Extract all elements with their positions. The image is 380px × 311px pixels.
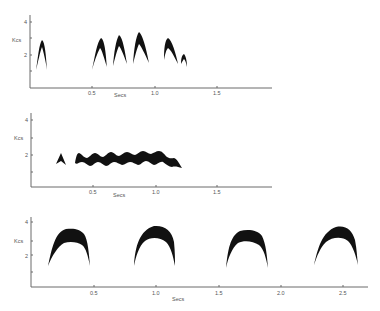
y-axis	[30, 15, 272, 88]
spectrogram-figure: 4 2 Kcs 0.5 1.0 1.5 Secs 4 2 Kcs 0.5 1.0…	[0, 0, 380, 311]
x-tick-label: 1.0	[152, 290, 160, 296]
y-axis-label: Kcs	[12, 37, 21, 43]
panel-middle: 4 2 Kcs 0.5 1.0 1.5 Secs	[14, 113, 272, 198]
note	[92, 38, 107, 70]
x-tick-label: 1.0	[151, 90, 159, 96]
x-tick-label: 0.5	[90, 290, 98, 296]
x-axis-label: Secs	[113, 192, 125, 198]
x-tick-label: 1.5	[213, 90, 221, 96]
y-tick-label: 2	[25, 253, 28, 259]
x-tick-label: 1.0	[152, 189, 160, 195]
y-tick-label: 4	[25, 117, 28, 123]
x-tick-label: 2.5	[339, 290, 347, 296]
arch-note	[314, 227, 358, 265]
x-tick-label: 1.5	[215, 290, 223, 296]
y-axis	[31, 113, 272, 187]
panel-bottom: 4 2 Kcs 0.5 1.0 1.5 2.0 2.5 Secs	[14, 217, 368, 302]
x-axis-label: Secs	[172, 296, 184, 302]
y-axis-label: Kcs	[14, 135, 23, 141]
y-axis-label: Kcs	[14, 238, 23, 244]
x-axis-label: Secs	[114, 92, 126, 98]
x-tick-label: 0.5	[89, 189, 97, 195]
y-tick-label: 4	[25, 219, 28, 225]
arch-note	[48, 229, 90, 266]
y-tick-label: 2	[25, 152, 28, 158]
note	[56, 153, 66, 165]
arch-note	[134, 226, 175, 266]
panel-top: 4 2 Kcs 0.5 1.0 1.5 Secs	[12, 15, 272, 98]
note	[164, 38, 178, 64]
y-tick-label: 2	[24, 52, 27, 58]
y-tick-label: 4	[24, 19, 27, 25]
note	[113, 35, 127, 66]
note	[133, 32, 149, 64]
note	[36, 40, 47, 70]
note	[181, 54, 187, 67]
trill	[75, 151, 182, 168]
x-tick-label: 0.5	[88, 90, 96, 96]
arch-note	[226, 230, 268, 268]
x-tick-label: 2.0	[277, 290, 285, 296]
x-tick-label: 1.5	[213, 189, 221, 195]
